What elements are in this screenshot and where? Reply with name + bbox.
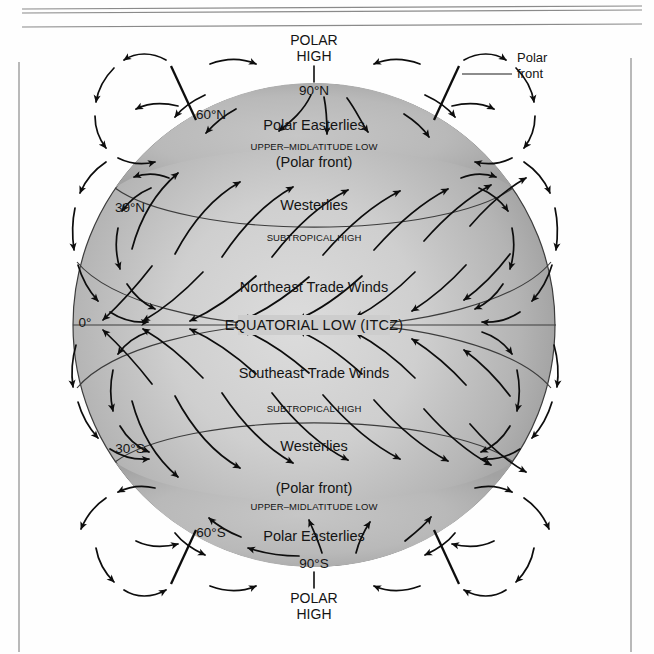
label-latitude-0: 0° xyxy=(79,315,92,330)
label-polar-high-south-line2: HIGH xyxy=(297,606,332,622)
label-upper-midlatitude-low-north: UPPER–MIDLATITUDE LOW xyxy=(250,141,377,152)
label-subtropical-high-south: SUBTROPICAL HIGH xyxy=(267,403,362,414)
label-southeast-trades: Southeast Trade Winds xyxy=(239,365,390,381)
label-latitude-60s: 60°S xyxy=(196,525,225,540)
label-polar-front-paren-south: (Polar front) xyxy=(276,480,353,496)
polar-front-tick-sw xyxy=(171,530,196,584)
callout-polar-front-line1: Polar xyxy=(517,50,548,65)
label-polar-high-north-line1: POLAR xyxy=(290,32,337,48)
label-polar-front-paren-north: (Polar front) xyxy=(276,154,353,170)
label-subtropical-high-north: SUBTROPICAL HIGH xyxy=(267,232,362,243)
label-polar-high-north-line2: HIGH xyxy=(297,48,332,64)
label-polar-high-south-line1: POLAR xyxy=(290,590,337,606)
label-latitude-30n: 30°N xyxy=(115,200,145,215)
label-polar-easterlies-south: Polar Easterlies xyxy=(263,528,365,544)
polar-front-tick-se xyxy=(434,530,459,584)
polar-front-tick-ne xyxy=(434,66,459,120)
label-northeast-trades: Northeast Trade Winds xyxy=(240,279,388,295)
label-westerlies-south: Westerlies xyxy=(280,438,347,454)
label-latitude-90s: 90°S xyxy=(299,556,328,571)
polar-front-tick-nw xyxy=(171,66,196,120)
label-latitude-60n: 60°N xyxy=(196,107,226,122)
label-polar-easterlies-north: Polar Easterlies xyxy=(263,117,365,133)
circulation-diagram: Polar front xyxy=(0,0,654,654)
label-westerlies-north: Westerlies xyxy=(280,197,347,213)
label-latitude-30s: 30°S xyxy=(115,441,144,456)
label-latitude-90n: 90°N xyxy=(299,83,329,98)
figure-canvas: Polar front xyxy=(0,0,654,654)
label-upper-midlatitude-low-south: UPPER–MIDLATITUDE LOW xyxy=(250,501,377,512)
label-equatorial-low: EQUATORIAL LOW (ITCZ) xyxy=(225,317,404,333)
